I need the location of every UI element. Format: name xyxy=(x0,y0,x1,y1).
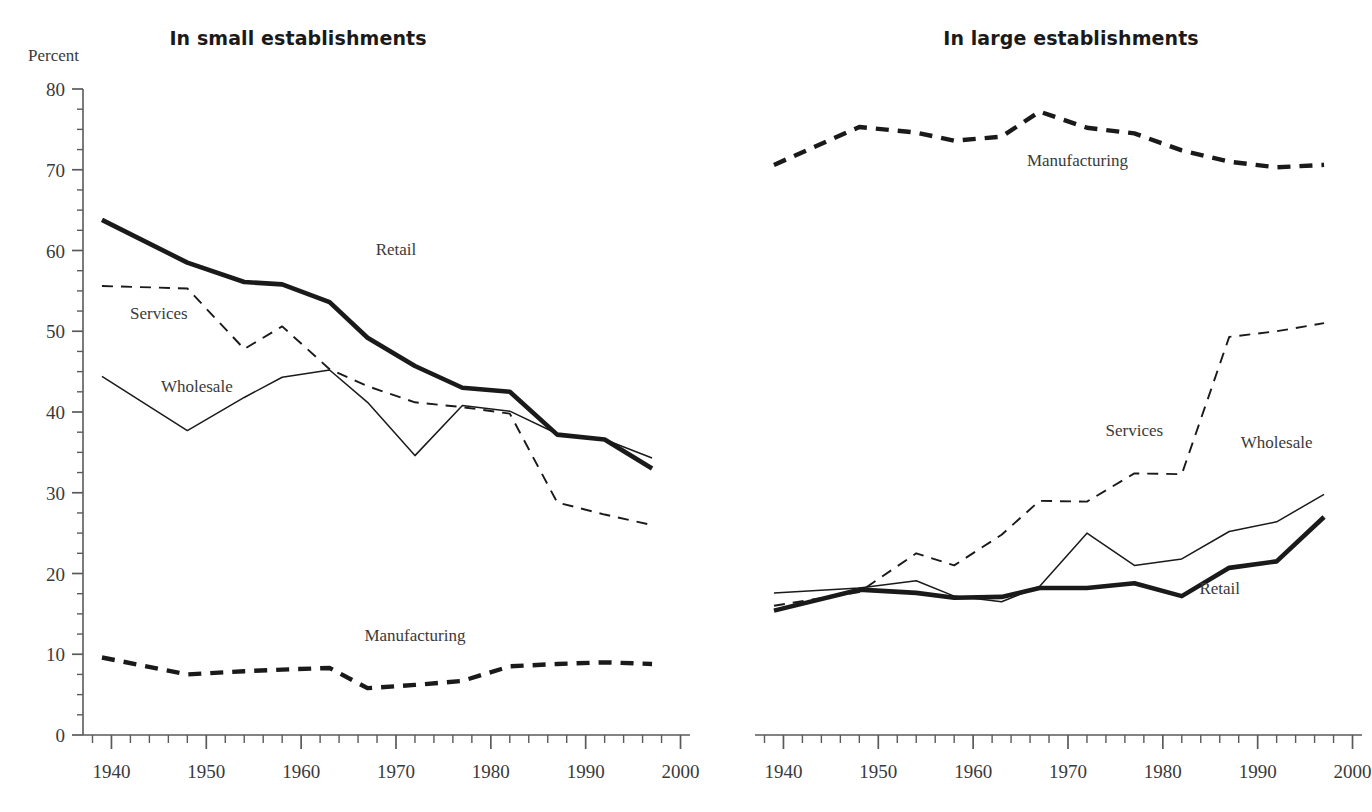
x-axis: 1940195019601970198019902000 xyxy=(755,735,1372,782)
y-tick-label: 80 xyxy=(46,79,65,100)
y-tick-label: 0 xyxy=(56,725,66,746)
x-tick-label: 1970 xyxy=(1049,761,1087,782)
series-label-retail: Retail xyxy=(376,240,417,259)
figure-root: In small establishments Percent 01020304… xyxy=(0,0,1372,812)
x-tick-label: 1980 xyxy=(472,761,510,782)
x-tick-label: 1980 xyxy=(1144,761,1182,782)
series-label-retail: Retail xyxy=(1199,579,1240,598)
y-tick-label: 50 xyxy=(46,321,65,342)
y-tick-label: 10 xyxy=(46,644,65,665)
y-tick-label: 60 xyxy=(46,241,65,262)
x-tick-label: 1940 xyxy=(764,761,802,782)
series-label-services: Services xyxy=(1106,421,1164,440)
series-label-services: Services xyxy=(130,304,188,323)
x-tick-label: 1990 xyxy=(567,761,605,782)
y-axis: 01020304050607080 xyxy=(46,79,83,746)
series-manufacturing: Manufacturing xyxy=(102,626,652,688)
series-line-wholesale xyxy=(774,494,1324,601)
chart-svg-large: 1940195019601970198019902000Manufacturin… xyxy=(690,0,1372,812)
x-tick-label: 1960 xyxy=(954,761,992,782)
series-label-wholesale: Wholesale xyxy=(161,377,233,396)
series-wholesale: Wholesale xyxy=(102,370,652,458)
series-label-wholesale: Wholesale xyxy=(1241,433,1313,452)
chart-panel-small: In small establishments Percent 01020304… xyxy=(0,0,700,812)
series-retail: Retail xyxy=(774,517,1324,611)
x-tick-label: 1990 xyxy=(1239,761,1277,782)
series-line-manufacturing xyxy=(102,657,652,688)
series-manufacturing: Manufacturing xyxy=(774,112,1324,170)
series-label-manufacturing: Manufacturing xyxy=(1027,151,1129,170)
x-tick-label: 2000 xyxy=(1334,761,1372,782)
y-tick-label: 40 xyxy=(46,402,65,423)
x-axis: 1940195019601970198019902000 xyxy=(83,735,700,782)
y-tick-label: 70 xyxy=(46,160,65,181)
x-tick-label: 1970 xyxy=(377,761,415,782)
y-tick-label: 30 xyxy=(46,483,65,504)
series-line-services xyxy=(774,323,1324,606)
series-line-retail xyxy=(774,517,1324,611)
series-label-manufacturing: Manufacturing xyxy=(364,626,466,645)
series-wholesale: Wholesale xyxy=(774,433,1324,601)
series-services: Services xyxy=(774,323,1324,606)
x-tick-label: 1960 xyxy=(282,761,320,782)
y-tick-label: 20 xyxy=(46,564,65,585)
chart-svg-small: 0102030405060708019401950196019701980199… xyxy=(0,0,700,812)
x-tick-label: 1950 xyxy=(859,761,897,782)
chart-panel-large: In large establishments 1940195019601970… xyxy=(690,0,1372,812)
x-tick-label: 1950 xyxy=(187,761,225,782)
x-tick-label: 1940 xyxy=(92,761,130,782)
series-retail: Retail xyxy=(102,220,652,469)
series-services: Services xyxy=(102,286,652,525)
